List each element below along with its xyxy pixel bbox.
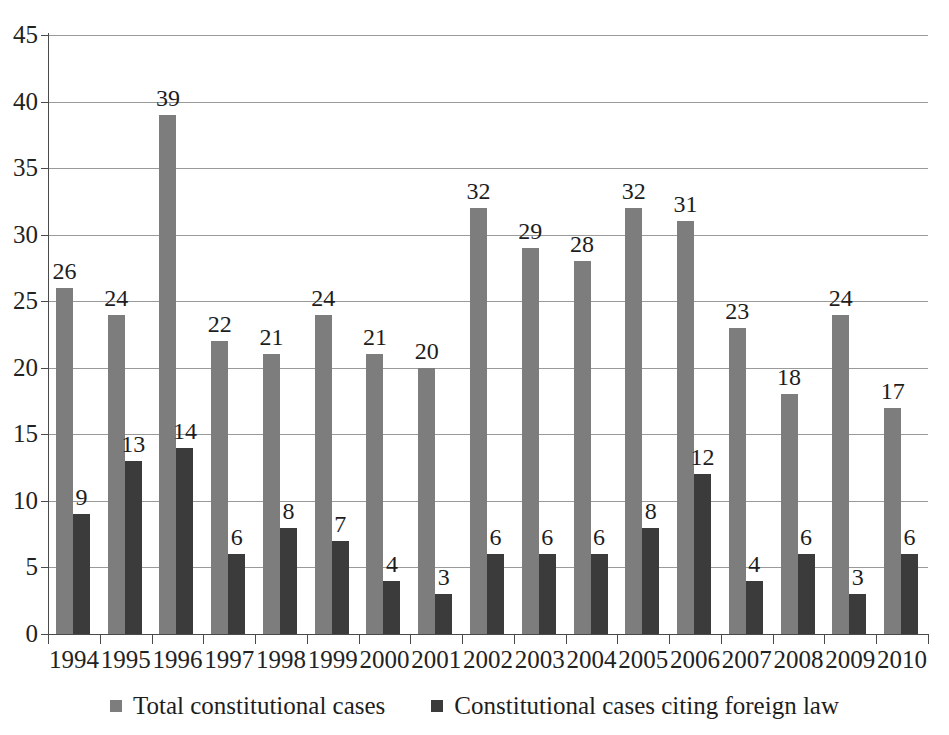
bar-total[interactable] <box>315 315 332 634</box>
bar-foreign[interactable] <box>746 581 763 634</box>
x-tick-mark <box>307 635 308 644</box>
bar-value-label: 26 <box>44 259 84 283</box>
bar-value-label: 22 <box>200 312 240 336</box>
bar-foreign[interactable] <box>332 541 349 634</box>
legend-item[interactable]: Total constitutional cases <box>110 692 385 719</box>
x-tick-mark <box>462 635 463 644</box>
bar-value-label: 12 <box>683 445 723 469</box>
x-tick-label: 2010 <box>872 645 932 675</box>
x-tick-mark <box>876 635 877 644</box>
bar-value-label: 18 <box>769 365 809 389</box>
bar-group: 3914 <box>152 35 204 634</box>
bar-value-label: 14 <box>165 419 205 443</box>
bar-group: 296 <box>514 35 566 634</box>
x-axis-line <box>48 634 929 635</box>
x-tick-mark <box>928 635 929 644</box>
bar-value-label: 28 <box>562 232 602 256</box>
bar-foreign[interactable] <box>435 594 452 634</box>
bar-value-label: 24 <box>96 286 136 310</box>
bar-value-label: 8 <box>631 499 671 523</box>
x-tick-mark <box>100 635 101 644</box>
y-tick-mark <box>41 102 49 103</box>
bar-value-label: 20 <box>407 339 447 363</box>
bar-total[interactable] <box>522 248 539 634</box>
y-tick-label: 45 <box>2 22 38 47</box>
y-axis-line <box>48 33 49 636</box>
legend-swatch-foreign-icon <box>431 700 443 712</box>
bar-group: 214 <box>359 35 411 634</box>
bar-total[interactable] <box>884 408 901 634</box>
bar-value-label: 24 <box>821 286 861 310</box>
bar-group: 176 <box>876 35 928 634</box>
y-tick-mark <box>41 235 49 236</box>
bar-value-label: 8 <box>268 499 308 523</box>
bar-total[interactable] <box>56 288 73 634</box>
bar-foreign[interactable] <box>539 554 556 634</box>
bar-foreign[interactable] <box>383 581 400 634</box>
bar-group: 269 <box>48 35 100 634</box>
chart-legend: Total constitutional casesConstitutional… <box>0 692 949 719</box>
bar-total[interactable] <box>625 208 642 634</box>
y-axis-tick-labels: 051015202530354045 <box>0 0 38 735</box>
bar-foreign[interactable] <box>591 554 608 634</box>
bar-foreign[interactable] <box>694 474 711 634</box>
bar-value-label: 3 <box>838 565 878 589</box>
bar-total[interactable] <box>574 261 591 634</box>
bar-total[interactable] <box>470 208 487 634</box>
legend-item[interactable]: Constitutional cases citing foreign law <box>431 692 839 719</box>
x-tick-mark <box>48 635 49 644</box>
bar-value-label: 17 <box>873 379 913 403</box>
bar-group: 326 <box>462 35 514 634</box>
y-tick-label: 20 <box>2 355 38 380</box>
bar-value-label: 6 <box>527 525 567 549</box>
bar-total[interactable] <box>729 328 746 634</box>
y-tick-mark <box>41 567 49 568</box>
bar-foreign[interactable] <box>125 461 142 634</box>
bar-value-label: 31 <box>666 192 706 216</box>
bar-foreign[interactable] <box>849 594 866 634</box>
bar-foreign[interactable] <box>176 448 193 634</box>
bar-value-label: 13 <box>113 432 153 456</box>
y-tick-mark <box>41 368 49 369</box>
bar-foreign[interactable] <box>228 554 245 634</box>
bar-value-label: 39 <box>148 86 188 110</box>
bar-value-label: 9 <box>61 485 101 509</box>
bar-group: 234 <box>721 35 773 634</box>
bar-total[interactable] <box>677 221 694 634</box>
bar-total[interactable] <box>418 368 435 634</box>
bar-value-label: 6 <box>579 525 619 549</box>
bar-value-label: 29 <box>510 219 550 243</box>
bar-foreign[interactable] <box>642 528 659 634</box>
bar-group: 328 <box>617 35 669 634</box>
bar-value-label: 7 <box>320 512 360 536</box>
y-tick-mark <box>41 35 49 36</box>
bar-foreign[interactable] <box>73 514 90 634</box>
bar-value-label: 21 <box>355 325 395 349</box>
bar-total[interactable] <box>781 394 798 634</box>
bar-group: 186 <box>773 35 825 634</box>
bar-value-label: 32 <box>614 179 654 203</box>
bar-group: 2413 <box>100 35 152 634</box>
bar-total[interactable] <box>366 354 383 634</box>
x-tick-mark <box>617 635 618 644</box>
bar-total[interactable] <box>159 115 176 634</box>
bar-foreign[interactable] <box>798 554 815 634</box>
y-tick-label: 5 <box>2 554 38 579</box>
bar-total[interactable] <box>263 354 280 634</box>
bar-total[interactable] <box>108 315 125 634</box>
bar-total[interactable] <box>211 341 228 634</box>
bar-foreign[interactable] <box>487 554 504 634</box>
x-tick-mark <box>566 635 567 644</box>
x-tick-mark <box>410 635 411 644</box>
x-tick-mark <box>255 635 256 644</box>
bar-value-label: 4 <box>734 552 774 576</box>
bar-value-label: 6 <box>217 525 257 549</box>
bar-foreign[interactable] <box>280 528 297 634</box>
y-tick-mark <box>41 168 49 169</box>
x-tick-mark <box>669 635 670 644</box>
y-tick-label: 35 <box>2 155 38 180</box>
legend-label: Total constitutional cases <box>133 692 385 719</box>
x-tick-mark <box>203 635 204 644</box>
y-tick-label: 30 <box>2 222 38 247</box>
bar-foreign[interactable] <box>901 554 918 634</box>
